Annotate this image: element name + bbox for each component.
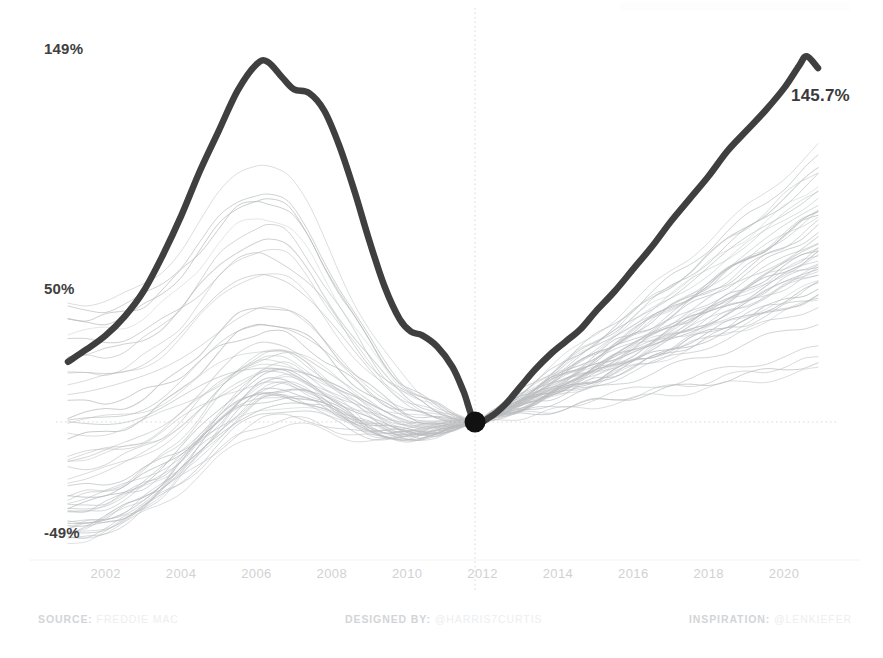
background-series-line bbox=[68, 144, 818, 422]
x-tick-label-2002: 2002 bbox=[90, 566, 121, 581]
background-series-line bbox=[68, 283, 818, 498]
highlight-series-group bbox=[68, 56, 818, 423]
x-tick-label-2010: 2010 bbox=[392, 566, 423, 581]
credit-designer-key: DESIGNED BY: bbox=[345, 613, 431, 625]
chart-plot-area bbox=[0, 0, 883, 658]
credit-inspiration-value: @LENKIEFER bbox=[774, 613, 852, 625]
background-series-line bbox=[68, 249, 818, 423]
background-series-group bbox=[68, 144, 818, 544]
origin-dot-marker bbox=[465, 412, 486, 433]
highlight-series-line bbox=[68, 56, 818, 423]
background-series-line bbox=[68, 191, 818, 423]
y-axis-label-top: 149% bbox=[44, 40, 83, 57]
credit-inspiration-key: INSPIRATION: bbox=[689, 613, 770, 625]
background-series-line bbox=[68, 256, 818, 532]
credit-designer: DESIGNED BY: @HARRIS7CURTIS bbox=[345, 613, 542, 625]
x-tick-label-2016: 2016 bbox=[618, 566, 649, 581]
endpoint-value-label: 145.7% bbox=[791, 86, 850, 106]
credit-designer-value: @HARRIS7CURTIS bbox=[435, 613, 543, 625]
house-price-index-chart: 149% 50% -49% 20022004200620082010201220… bbox=[0, 0, 883, 658]
credit-inspiration: INSPIRATION: @LENKIEFER bbox=[689, 613, 852, 625]
credit-source-key: SOURCE: bbox=[38, 613, 93, 625]
x-tick-label-2006: 2006 bbox=[241, 566, 272, 581]
background-series-line bbox=[68, 346, 818, 538]
background-series-line bbox=[68, 357, 818, 530]
credit-source: SOURCE: FREDDIE MAC bbox=[38, 613, 179, 625]
x-tick-label-2018: 2018 bbox=[693, 566, 724, 581]
x-tick-label-2020: 2020 bbox=[769, 566, 800, 581]
x-tick-label-2008: 2008 bbox=[317, 566, 348, 581]
y-axis-label-bottom: -49% bbox=[44, 524, 80, 541]
credit-source-value: FREDDIE MAC bbox=[97, 613, 179, 625]
x-tick-label-2004: 2004 bbox=[166, 566, 197, 581]
background-series-line bbox=[68, 367, 818, 538]
y-axis-label-mid: 50% bbox=[44, 280, 75, 297]
origin-marker-group bbox=[465, 412, 486, 433]
x-tick-label-2012: 2012 bbox=[467, 566, 498, 581]
x-tick-label-2014: 2014 bbox=[543, 566, 574, 581]
